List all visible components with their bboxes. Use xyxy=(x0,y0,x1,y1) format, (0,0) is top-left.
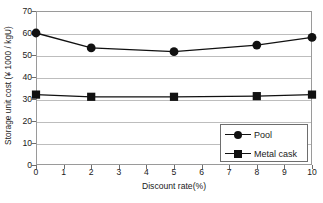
data-point-circle[interactable] xyxy=(252,41,261,50)
x-axis-tick-label: 5 xyxy=(172,167,177,177)
chart-legend: Pool Metal cask xyxy=(220,124,308,162)
x-axis-tick-label: 6 xyxy=(199,167,204,177)
series-pool xyxy=(32,29,317,56)
series-metal-cask xyxy=(32,91,316,101)
data-point-circle[interactable] xyxy=(170,47,179,56)
x-axis-tick-label: 3 xyxy=(116,167,121,177)
x-axis-tick-label: 9 xyxy=(282,167,287,177)
x-axis-title: Discount rate(%) xyxy=(36,181,312,191)
legend-item-metal-cask[interactable]: Metal cask xyxy=(221,144,307,163)
x-axis-tick-label: 0 xyxy=(34,167,39,177)
data-point-square[interactable] xyxy=(87,93,95,101)
legend-marker-square-icon xyxy=(225,147,251,161)
data-point-circle[interactable] xyxy=(32,29,41,38)
data-point-square[interactable] xyxy=(170,93,178,101)
x-axis-tick-label: 7 xyxy=(227,167,232,177)
data-point-square[interactable] xyxy=(308,91,316,99)
x-axis-tick-label: 4 xyxy=(144,167,149,177)
x-axis-tick-label: 2 xyxy=(89,167,94,177)
legend-item-pool[interactable]: Pool xyxy=(221,125,307,144)
x-axis-tick-label: 10 xyxy=(307,167,317,177)
x-axis-tick-label: 1 xyxy=(61,167,66,177)
data-point-circle[interactable] xyxy=(87,44,96,53)
data-point-circle[interactable] xyxy=(308,33,317,42)
x-axis-tick-labels: 012345678910 xyxy=(0,167,323,181)
chart-figure: Storage unit cost (¥ 1000 / kgU) 0102030… xyxy=(0,0,323,203)
legend-label: Pool xyxy=(254,130,272,140)
data-point-square[interactable] xyxy=(32,91,40,99)
legend-label: Metal cask xyxy=(254,149,297,159)
data-point-square[interactable] xyxy=(253,92,261,100)
legend-marker-circle-icon xyxy=(225,128,251,142)
x-axis-tick-label: 8 xyxy=(254,167,259,177)
